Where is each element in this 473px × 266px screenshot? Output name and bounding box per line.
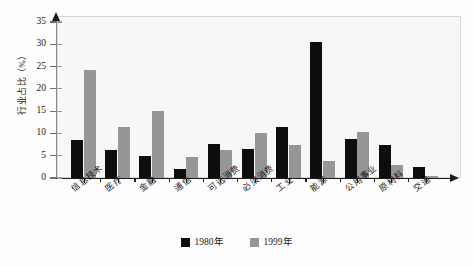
x-axis-minor-tick (237, 179, 238, 182)
bar-group (310, 16, 336, 178)
bar-1980 (345, 139, 357, 178)
y-axis-title: 行业占比（%） (18, 23, 27, 143)
bar-1980 (379, 145, 391, 178)
bar-1999 (152, 111, 164, 178)
chart-legend: 1980年1999年 (0, 238, 473, 248)
x-axis-minor-tick (203, 179, 204, 182)
bar-chart-figure: 05101520253035 行业占比（%） 信息技术医疗金融通信可选消费必须消… (0, 0, 473, 266)
legend-swatch-icon (250, 238, 259, 247)
x-axis-minor-tick (305, 179, 306, 182)
bar-1999 (84, 70, 96, 178)
y-axis-tick-label: 5 (6, 151, 46, 161)
bar-group (413, 16, 439, 178)
legend-swatch-icon (181, 238, 190, 247)
y-axis-tick (50, 44, 56, 45)
y-axis-tick (50, 66, 56, 67)
y-axis-tick (50, 111, 56, 112)
legend-label: 1980年 (195, 238, 224, 248)
bar-group (71, 16, 97, 178)
bar-1999 (289, 145, 301, 178)
y-axis-tick-label: 0 (6, 173, 46, 183)
bar-1980 (310, 42, 322, 178)
bar-1999 (118, 127, 130, 178)
x-axis-minor-tick (134, 179, 135, 182)
bar-group (174, 16, 200, 178)
y-axis-tick (50, 177, 56, 178)
bar-group (345, 16, 371, 178)
legend-item-1999: 1999年 (250, 238, 293, 248)
x-axis-minor-tick (408, 179, 409, 182)
bar-1980 (208, 144, 220, 178)
y-axis-tick (50, 133, 56, 134)
legend-item-1980: 1980年 (181, 238, 224, 248)
bar-group (208, 16, 234, 178)
bar-group (139, 16, 165, 178)
y-axis-tick (50, 155, 56, 156)
y-axis-tick (50, 88, 56, 89)
x-axis-minor-tick (100, 179, 101, 182)
bar-1980 (105, 150, 117, 178)
bar-1980 (276, 127, 288, 178)
bar-1980 (242, 149, 254, 178)
bar-group (242, 16, 268, 178)
x-axis-minor-tick (169, 179, 170, 182)
x-axis-minor-tick (340, 179, 341, 182)
bars-layer (57, 16, 461, 178)
x-axis-minor-tick (271, 179, 272, 182)
x-axis-minor-tick (374, 179, 375, 182)
bar-group (105, 16, 131, 178)
bar-1980 (71, 140, 83, 178)
y-axis-tick (50, 21, 56, 22)
bar-group (276, 16, 302, 178)
bar-group (379, 16, 405, 178)
legend-label: 1999年 (264, 238, 293, 248)
